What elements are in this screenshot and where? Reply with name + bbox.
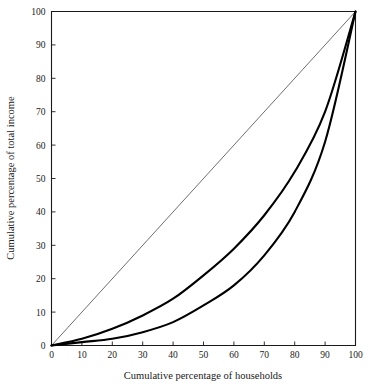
x-axis-tick-marks — [52, 342, 356, 346]
y-tick-label: 90 — [36, 40, 46, 50]
y-axis-title: Cumulative percentage of total income — [5, 96, 16, 260]
lorenz-curve-chart: 0102030405060708090100 01020304050607080… — [0, 0, 378, 387]
x-tick-label: 50 — [199, 350, 209, 360]
x-tick-label: 80 — [290, 350, 300, 360]
x-tick-label: 100 — [348, 350, 363, 360]
y-tick-label: 100 — [31, 7, 46, 17]
x-tick-label: 90 — [320, 350, 330, 360]
chart-canvas: 0102030405060708090100 01020304050607080… — [0, 0, 378, 387]
x-tick-label: 0 — [49, 350, 54, 360]
x-tick-label: 70 — [260, 350, 270, 360]
x-tick-label: 10 — [77, 350, 87, 360]
x-tick-label: 40 — [168, 350, 178, 360]
y-tick-label: 30 — [36, 241, 46, 251]
y-tick-label: 80 — [36, 74, 46, 84]
x-tick-label: 20 — [108, 350, 118, 360]
y-tick-label: 10 — [36, 308, 46, 318]
line-of-equality — [52, 12, 356, 346]
data-series-group — [52, 12, 356, 346]
y-tick-label: 70 — [36, 107, 46, 117]
y-axis-tick-labels: 0102030405060708090100 — [31, 7, 46, 351]
y-tick-label: 0 — [41, 341, 46, 351]
y-tick-label: 40 — [36, 207, 46, 217]
x-axis-title: Cumulative percentage of households — [124, 370, 282, 381]
x-tick-label: 60 — [229, 350, 239, 360]
y-tick-label: 60 — [36, 141, 46, 151]
x-axis-tick-labels: 0102030405060708090100 — [49, 350, 363, 360]
y-tick-label: 20 — [36, 274, 46, 284]
x-tick-label: 30 — [138, 350, 148, 360]
y-tick-label: 50 — [36, 174, 46, 184]
y-axis-tick-marks — [52, 12, 56, 346]
